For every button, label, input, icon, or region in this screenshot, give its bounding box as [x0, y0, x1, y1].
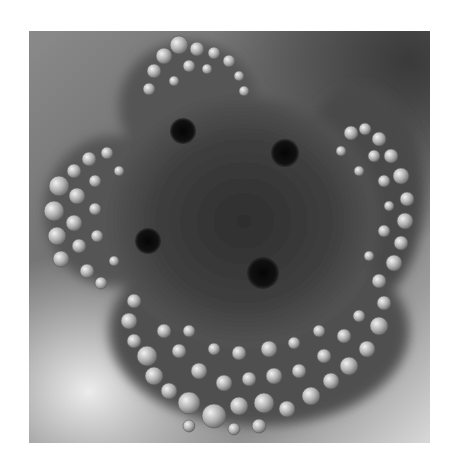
dark-body — [135, 228, 161, 254]
microscopy-photo — [29, 31, 430, 443]
dark-body — [271, 139, 299, 167]
cell-illustration — [29, 31, 430, 443]
dark-body — [247, 257, 279, 289]
dark-body — [170, 118, 196, 144]
